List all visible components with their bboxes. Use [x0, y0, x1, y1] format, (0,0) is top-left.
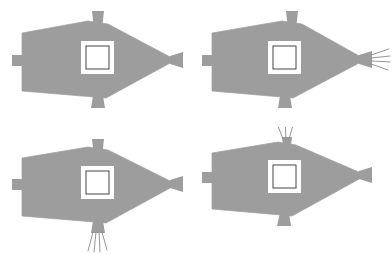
panel-top-right [196, 0, 392, 127]
window-outline [86, 46, 109, 69]
right-tab-bristles [371, 49, 390, 70]
panel-bottom-right-graphic [202, 127, 372, 226]
panel-top-right-graphic [202, 11, 390, 108]
figure-root [0, 0, 392, 254]
window-outline [86, 171, 109, 194]
panel-top-left-graphic [12, 11, 183, 108]
panel-bottom-right [196, 127, 392, 254]
bottom-tab-bristles [88, 232, 107, 252]
window-outline [273, 46, 296, 69]
window-outline [273, 165, 296, 188]
panel-bottom-left [0, 127, 196, 254]
panel-top-left [0, 0, 196, 127]
panel-bottom-left-graphic [12, 139, 183, 252]
